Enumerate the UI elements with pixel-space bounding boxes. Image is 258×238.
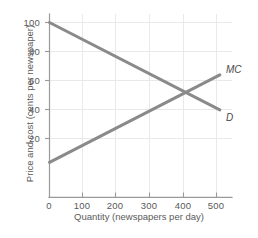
horizontal-gridlines [49, 23, 232, 139]
xtick-label-300: 300 [136, 200, 162, 211]
xtick-label-400: 400 [170, 200, 196, 211]
y-axis-ticks [45, 23, 50, 139]
vertical-gridlines [83, 14, 217, 197]
axes [49, 14, 232, 198]
chart-figure: 100 80 60 40 20 0 100 200 300 400 500 Pr… [0, 0, 258, 238]
x-axis-label: Quantity (newspapers per day) [49, 211, 229, 222]
series-label-d: D [226, 112, 233, 123]
xtick-label-200: 200 [102, 200, 128, 211]
xtick-label-100: 100 [69, 200, 95, 211]
xtick-label-500: 500 [203, 200, 229, 211]
x-axis-ticks [83, 193, 217, 198]
y-axis-label: Price and cost (cents per newspaper) [24, 19, 35, 189]
xtick-label-0: 0 [36, 200, 62, 211]
demand-curve [50, 23, 220, 110]
series-label-mc: MC [226, 64, 242, 75]
marginal-cost-curve [50, 75, 220, 162]
